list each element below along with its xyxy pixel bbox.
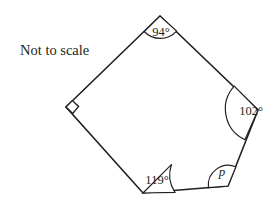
right-angle-marker-left (66, 101, 79, 114)
angle-label-top: 94° (152, 25, 170, 39)
geometry-figure: 94° 102° p 119° Not to scale (0, 0, 280, 212)
angle-label-right: 102° (239, 104, 263, 118)
angle-label-bottom-left: 119° (145, 173, 168, 187)
not-to-scale-note: Not to scale (20, 42, 89, 58)
angle-label-bottom-right: p (218, 164, 226, 179)
